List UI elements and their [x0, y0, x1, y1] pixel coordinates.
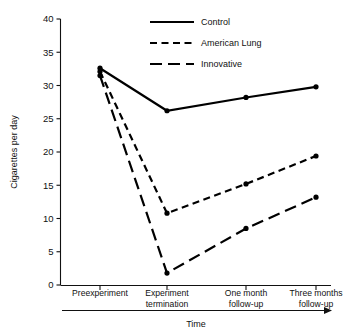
y-tick-label: 30 [43, 80, 54, 91]
series-line-innovative [100, 76, 316, 274]
chart-legend: ControlAmerican LungInnovative [150, 17, 262, 69]
y-tick-label: 0 [48, 279, 53, 290]
y-tick-label: 15 [43, 180, 54, 191]
data-point [164, 270, 169, 275]
x-axis-title: Time [186, 319, 206, 329]
x-category-label: follow-up [299, 299, 334, 309]
time-axis-arrow [62, 307, 332, 314]
y-tick-label: 5 [48, 246, 53, 257]
data-point [97, 73, 102, 78]
data-series-group [97, 66, 318, 276]
y-tick-label: 35 [43, 47, 54, 58]
cigarette-consumption-line-chart: 0510152025303540 PreexperimentExperiment… [0, 0, 360, 332]
x-category-label: termination [146, 299, 189, 309]
legend-label: American Lung [201, 38, 262, 48]
x-category-label: One month [225, 288, 268, 298]
data-point [313, 84, 318, 89]
y-tick-label: 10 [43, 213, 54, 224]
y-tick-label: 25 [43, 113, 54, 124]
data-point [313, 195, 318, 200]
x-category-label: Three months [289, 288, 342, 298]
x-category-label: Preexperiment [72, 288, 128, 298]
x-axis-category-labels: PreexperimentExperimentterminationOne mo… [72, 288, 342, 309]
data-point [164, 108, 169, 113]
legend-label: Control [201, 17, 230, 27]
legend-label: Innovative [201, 59, 242, 69]
data-point [164, 211, 169, 216]
data-point [313, 153, 318, 158]
data-point [243, 226, 248, 231]
y-axis-ticks: 0510152025303540 [43, 13, 61, 290]
y-tick-label: 40 [43, 13, 54, 24]
y-tick-label: 20 [43, 146, 54, 157]
y-axis-title: Cigarettes per day [9, 115, 19, 189]
chart-canvas: 0510152025303540 PreexperimentExperiment… [0, 0, 360, 332]
data-point [243, 181, 248, 186]
x-category-label: follow-up [229, 299, 264, 309]
x-category-label: Experiment [145, 288, 189, 298]
series-line-control [100, 68, 316, 111]
data-point [243, 95, 248, 100]
